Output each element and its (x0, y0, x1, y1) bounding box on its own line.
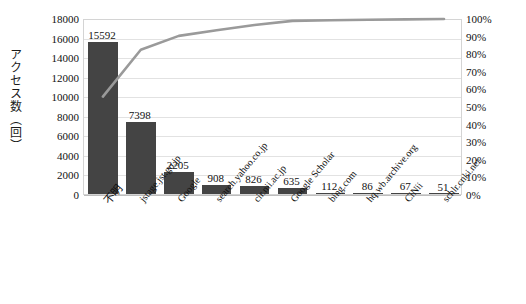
secondary-y-tick-label: 90% (466, 32, 516, 42)
secondary-y-tick-label: 30% (466, 137, 516, 147)
secondary-y-tick-label: 40% (466, 120, 516, 130)
y-tick-label: 10000 (33, 92, 79, 102)
y-tick-label: 16000 (33, 34, 79, 44)
plot-area (83, 19, 462, 195)
secondary-y-tick-label: 100% (466, 14, 516, 24)
y-tick-label: 2000 (33, 170, 79, 180)
y-tick-label: 14000 (33, 53, 79, 63)
y-axis-title-text: アクセス数（回） (7, 48, 24, 152)
bar-value-label: 15592 (83, 30, 121, 41)
x-axis-category-labels: 不明jstage.jst.go.jpGooglesearch.yahoo.co.… (83, 197, 462, 302)
y-tick-label: 8000 (33, 112, 79, 122)
y-tick-label: 6000 (33, 131, 79, 141)
y-tick-label: 4000 (33, 151, 79, 161)
secondary-y-tick-label: 50% (466, 102, 516, 112)
cumulative-polyline (103, 19, 444, 97)
y-axis-tick-labels: 1800016000140001200010000800060004000200… (31, 0, 79, 304)
y-tick-label: 0 (33, 190, 79, 200)
secondary-y-tick-label: 60% (466, 84, 516, 94)
secondary-y-tick-label: 80% (466, 49, 516, 59)
y-axis-title: アクセス数（回） (2, 0, 28, 200)
bar-value-label: 7398 (121, 110, 159, 121)
y-tick-label: 18000 (33, 14, 79, 24)
y-tick-label: 12000 (33, 73, 79, 83)
secondary-y-tick-label: 70% (466, 67, 516, 77)
secondary-y-axis-tick-labels: 100%90%80%70%60%50%40%30%20%10%0% (466, 0, 524, 304)
pareto-chart: アクセス数（回） 1800016000140001200010000800060… (0, 0, 526, 304)
secondary-y-tick-label: 0% (466, 190, 516, 200)
